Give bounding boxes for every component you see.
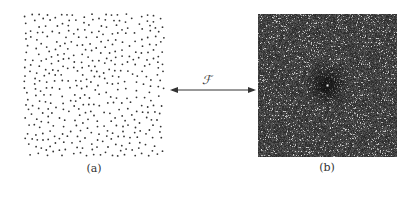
point-pattern-image bbox=[22, 12, 166, 158]
spectrum-image bbox=[258, 14, 397, 157]
panel-b-caption: (b) bbox=[307, 161, 347, 174]
panel-a-caption: (a) bbox=[74, 162, 114, 175]
spectrum-panel bbox=[258, 14, 397, 157]
point-pattern-panel bbox=[22, 12, 166, 158]
fourier-transform-arrow bbox=[168, 76, 258, 102]
fourier-label: ℱ bbox=[202, 73, 211, 87]
